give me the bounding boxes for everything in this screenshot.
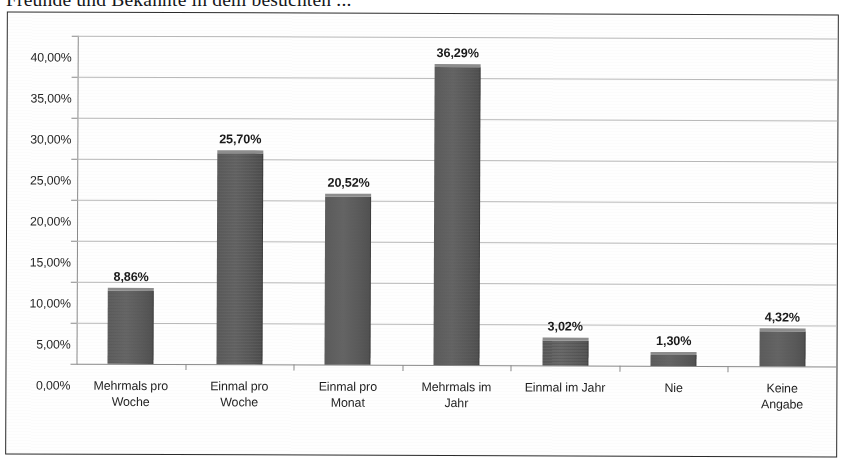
x-axis-category-label-7: Keine Angabe xyxy=(755,380,809,412)
bar-value-label-6: 1,30% xyxy=(656,334,691,348)
y-axis-tick xyxy=(70,364,76,365)
y-axis-tick xyxy=(71,159,77,160)
y-axis-tick-label: 10,00% xyxy=(30,296,71,310)
x-axis-category-label-3: Einmal pro Monat xyxy=(319,379,377,411)
bar-value-label-2: 25,70% xyxy=(219,132,261,146)
x-axis-category-label-5: Einmal im Jahr xyxy=(525,379,606,395)
y-axis-tick-label: 40,00% xyxy=(31,50,72,64)
y-axis-tick-label: 5,00% xyxy=(36,338,70,352)
bar-value-label-1: 8,86% xyxy=(113,270,148,284)
y-axis-tick xyxy=(71,118,77,119)
x-axis-tick xyxy=(402,365,403,371)
bar-2[interactable] xyxy=(216,150,263,364)
y-axis-tick xyxy=(71,323,77,324)
bar-value-label-3: 20,52% xyxy=(328,175,370,189)
x-axis-tick xyxy=(728,366,729,372)
y-axis-tick-label: 0,00% xyxy=(36,379,70,393)
bar-6[interactable] xyxy=(651,352,697,366)
chart-frame: 40,00%35,00%30,00%25,00%20,00%15,00%10,0… xyxy=(5,11,839,457)
x-axis-tick xyxy=(185,364,186,370)
y-axis-tick xyxy=(72,36,78,37)
y-axis-tick xyxy=(71,282,77,283)
bar-value-label-5: 3,02% xyxy=(548,320,583,334)
bar-7[interactable] xyxy=(759,328,805,367)
y-axis-tick-label: 20,00% xyxy=(30,214,71,228)
x-axis-tick xyxy=(619,366,620,372)
page-title: Freunde und Bekannte in dem besuchten ..… xyxy=(6,0,352,11)
x-axis-category-label-2: Einmal pro Woche xyxy=(210,378,268,410)
y-axis-tick xyxy=(71,241,77,242)
bar-3[interactable] xyxy=(325,193,372,364)
bar-5[interactable] xyxy=(542,338,588,366)
bar-value-label-7: 4,32% xyxy=(765,310,800,324)
bar-1[interactable] xyxy=(108,288,154,364)
y-axis-tick-label: 30,00% xyxy=(30,132,71,146)
x-axis-category-label-1: Mehrmals pro Woche xyxy=(93,378,168,410)
x-axis-category-label-4: Mehrmals im Jahr xyxy=(421,379,491,411)
bar-4[interactable] xyxy=(433,64,480,365)
gridline-4000 xyxy=(78,36,838,40)
y-axis-tick xyxy=(71,200,77,201)
x-axis-tick xyxy=(294,365,295,371)
x-axis-tick xyxy=(511,365,512,371)
y-axis-labels: 40,00%35,00%30,00%25,00%20,00%15,00%10,0… xyxy=(0,35,72,363)
y-axis-tick-label: 25,00% xyxy=(30,173,71,187)
y-axis-tick-label: 35,00% xyxy=(30,91,71,105)
x-axis-category-label-6: Nie xyxy=(664,380,682,396)
y-axis-tick-label: 15,00% xyxy=(30,255,71,269)
y-axis-tick xyxy=(72,77,78,78)
bar-value-label-4: 36,29% xyxy=(437,46,479,60)
plot-area: 8,86%Mehrmals pro Woche25,70%Einmal pro … xyxy=(77,36,838,367)
